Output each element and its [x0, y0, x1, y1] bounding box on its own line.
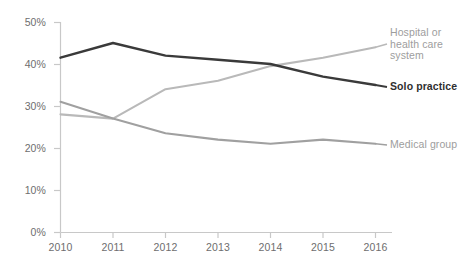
series-label-hospital-line1: Hospital or [390, 27, 443, 39]
y-axis-ticks [54, 23, 61, 233]
series-label-hospital-line3: system [390, 50, 443, 62]
x-tick-label-2013: 2013 [195, 241, 241, 253]
y-tick-label-10: 10% [10, 184, 46, 196]
series-label-hospital: Hospital or health care system [390, 27, 443, 62]
leader-line-medical-group [376, 144, 388, 145]
series-label-solo-practice: Solo practice [390, 81, 457, 93]
x-axis-ticks [61, 233, 376, 239]
x-tick-label-2015: 2015 [300, 241, 346, 253]
x-tick-label-2010: 2010 [38, 241, 84, 253]
y-tick-label-20: 20% [10, 142, 46, 154]
y-tick-label-0: 0% [10, 226, 46, 238]
series-label-medical-group: Medical group [390, 139, 457, 151]
x-tick-label-2014: 2014 [248, 241, 294, 253]
series-line-medical-group [61, 102, 376, 144]
y-tick-label-40: 40% [10, 58, 46, 70]
line-chart: 50% 40% 30% 20% 10% 0% 2010 2011 2012 20… [0, 0, 467, 264]
x-tick-label-2011: 2011 [90, 241, 136, 253]
y-tick-label-50: 50% [10, 16, 46, 28]
x-tick-label-2016: 2016 [353, 241, 399, 253]
leader-line-solo-practice [376, 85, 388, 87]
leader-line-hospital [376, 44, 388, 47]
series-line-solo-practice [61, 43, 376, 85]
y-tick-label-30: 30% [10, 100, 46, 112]
x-tick-label-2012: 2012 [143, 241, 189, 253]
series-line-hospital [61, 47, 376, 118]
